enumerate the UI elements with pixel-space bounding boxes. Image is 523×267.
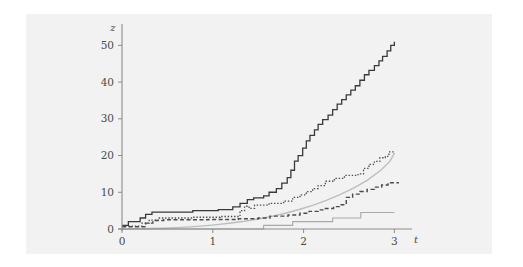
- axes-layer: [118, 24, 412, 233]
- series-counting-process-high: [122, 42, 394, 226]
- y-tick-label: 0: [107, 223, 114, 235]
- y-tick-label: 40: [101, 76, 114, 88]
- y-tick-label: 20: [101, 149, 114, 161]
- y-tick-label: 10: [101, 186, 114, 198]
- x-tick-label: 3: [391, 235, 398, 247]
- x-tick-label: 2: [300, 235, 307, 247]
- chart-svg: 010203040500123 z t: [0, 0, 523, 267]
- x-tick-label: 0: [119, 235, 126, 247]
- figure-container: 010203040500123 z t: [0, 0, 523, 267]
- series-layer: [122, 42, 399, 229]
- x-axis-label: t: [414, 234, 419, 245]
- x-tick-label: 1: [209, 235, 216, 247]
- y-tick-label: 30: [101, 112, 114, 124]
- series-counting-process-mid-dotted: [122, 152, 394, 226]
- y-tick-label: 50: [101, 39, 114, 51]
- y-axis-label: z: [109, 22, 116, 33]
